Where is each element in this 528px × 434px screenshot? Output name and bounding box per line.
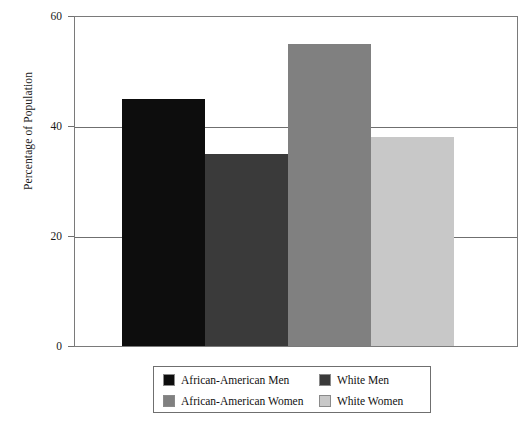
legend-swatch-icon [319,374,331,386]
bar-african-american-men [122,99,205,347]
legend-swatch-icon [319,395,331,407]
legend-entry-african-american-men: African-American Men [163,374,289,386]
legend-label: White Women [337,395,403,407]
legend-entry-african-american-women: African-American Women [163,395,303,407]
legend-label: African-American Men [181,374,289,386]
legend-swatch-icon [163,374,175,386]
legend: African-American Men White Men African-A… [153,366,431,413]
bar-white-men [205,154,288,347]
bar-african-american-women [288,44,371,347]
legend-label: African-American Women [181,395,303,407]
legend-label: White Men [337,374,389,386]
legend-entry-white-men: White Men [319,374,389,386]
legend-entry-white-women: White Women [319,395,403,407]
y-tick-label-0: 0 [16,341,62,353]
bar-chart: Percentage of Population 60 40 20 0 Afri… [0,0,528,434]
bar-white-women [371,137,454,346]
y-tick-label-20: 20 [16,231,62,243]
legend-row: African-American Women White Women [154,390,430,411]
bars-layer [74,16,518,347]
y-tick-label-40: 40 [16,121,62,133]
legend-swatch-icon [163,395,175,407]
y-tick-label-60: 60 [16,11,62,23]
legend-row: African-American Men White Men [154,369,430,390]
